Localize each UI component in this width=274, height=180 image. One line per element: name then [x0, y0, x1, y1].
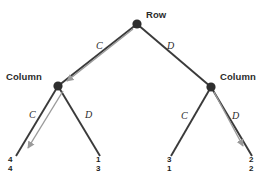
payoff-column-value: 1 — [167, 164, 171, 173]
payoff-row-value: 3 — [167, 155, 171, 164]
node-right-column — [206, 82, 215, 91]
edge-label-left-column-d: D — [85, 110, 92, 120]
edge-label-root-d: D — [167, 41, 174, 51]
payoff-column-value: 3 — [96, 164, 100, 173]
payoff-column-value: 2 — [249, 164, 253, 173]
edge-label-left-column-c: C — [29, 110, 36, 120]
decision-node-group — [53, 19, 215, 91]
game-tree-diagram: Row Column Column C D C D C D 4 4 1 3 3 … — [0, 0, 274, 180]
edge-root-to-right-column — [137, 24, 211, 87]
node-root — [132, 19, 141, 28]
payoff-leaf-dd: 2 2 — [249, 155, 253, 173]
solution-arrow-root-to-left-column — [67, 29, 133, 81]
payoff-column-value: 4 — [8, 164, 12, 173]
payoff-leaf-cd: 1 3 — [96, 155, 100, 173]
node-label-left-column-player: Column — [6, 72, 42, 82]
edge-label-right-column-d: D — [232, 111, 239, 121]
node-label-root-player: Row — [146, 10, 166, 20]
payoff-leaf-cc: 4 4 — [8, 155, 12, 173]
payoff-row-value: 4 — [8, 155, 12, 164]
edge-right-column-to-leaf-dc — [171, 87, 211, 156]
node-left-column — [53, 81, 62, 90]
tree-edges-svg — [0, 0, 274, 180]
edge-line-group — [16, 24, 252, 156]
payoff-row-value: 2 — [249, 155, 253, 164]
edge-root-to-left-column — [58, 24, 137, 86]
payoff-row-value: 1 — [96, 155, 100, 164]
edge-left-column-to-leaf-cc — [16, 86, 58, 156]
edge-left-column-to-leaf-cd — [58, 86, 100, 156]
edge-label-right-column-c: C — [181, 111, 188, 121]
node-label-right-column-player: Column — [220, 72, 256, 82]
payoff-leaf-dc: 3 1 — [167, 155, 171, 173]
edge-label-root-c: C — [96, 41, 103, 51]
